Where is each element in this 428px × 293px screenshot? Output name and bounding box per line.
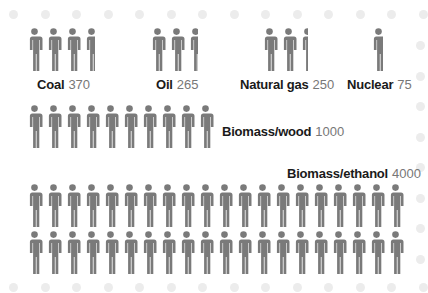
background-dot: [9, 283, 18, 292]
person-icon: [63, 231, 82, 275]
person-icon: [101, 184, 120, 228]
person-icon-partial: [82, 28, 95, 72]
person-icon: [25, 184, 44, 228]
category-name: Nuclear: [347, 77, 393, 92]
background-dot: [230, 10, 239, 19]
background-dot: [419, 283, 428, 292]
person-icon: [82, 231, 101, 275]
person-icon: [215, 184, 234, 228]
person-icon: [158, 184, 177, 228]
category-value: 265: [177, 77, 199, 92]
background-dot: [416, 133, 425, 142]
background-dot: [324, 283, 333, 292]
person-icon: [82, 184, 101, 228]
person-icon: [386, 184, 405, 228]
background-dot: [416, 72, 425, 81]
label-biomass-ethanol: Biomass/ethanol4000: [287, 166, 421, 181]
person-icon: [272, 184, 291, 228]
background-dot: [261, 10, 270, 19]
background-dot: [9, 10, 18, 19]
icon-row: [25, 28, 95, 72]
background-dot: [198, 10, 207, 19]
category-name: Biomass/wood: [222, 124, 311, 139]
background-dot: [135, 283, 144, 292]
category-name: Oil: [156, 77, 173, 92]
person-icon: [329, 184, 348, 228]
person-icon: [63, 184, 82, 228]
person-icon: [63, 105, 82, 149]
person-icon: [120, 231, 139, 275]
person-icon: [25, 28, 44, 72]
icon-row: [25, 105, 215, 149]
person-icon: [44, 184, 63, 228]
background-dot: [416, 255, 425, 264]
background-dot: [293, 283, 302, 292]
person-icon: [348, 231, 367, 275]
person-icon: [44, 28, 63, 72]
label-biomass-wood: Biomass/wood1000: [222, 124, 344, 139]
person-icon: [177, 231, 196, 275]
background-dot: [356, 283, 365, 292]
background-dot: [198, 283, 207, 292]
background-dot: [356, 10, 365, 19]
person-icon: [101, 231, 120, 275]
background-dot: [135, 10, 144, 19]
person-icon: [167, 28, 186, 72]
background-dot: [416, 41, 425, 50]
person-icon: [348, 184, 367, 228]
background-dot: [104, 283, 113, 292]
icon-row: [260, 28, 308, 72]
icon-row: [148, 28, 198, 72]
person-icon: [25, 105, 44, 149]
person-icon: [272, 231, 291, 275]
person-icon: [367, 231, 386, 275]
person-icon: [253, 231, 272, 275]
background-dot: [41, 10, 50, 19]
person-icon-partial: [186, 28, 198, 72]
person-icon: [291, 231, 310, 275]
person-icon: [139, 231, 158, 275]
category-value: 370: [68, 77, 90, 92]
category-value: 75: [397, 77, 411, 92]
person-icon: [158, 231, 177, 275]
person-icon: [120, 105, 139, 149]
person-icon: [177, 105, 196, 149]
background-dot: [72, 283, 81, 292]
person-icon: [329, 231, 348, 275]
person-icon: [158, 105, 177, 149]
person-icon: [196, 105, 215, 149]
background-dot: [72, 10, 81, 19]
category-name: Biomass/ethanol: [287, 166, 388, 181]
category-value: 1000: [315, 124, 344, 139]
background-dot: [416, 102, 425, 111]
person-icon: [120, 184, 139, 228]
person-icon: [386, 231, 405, 275]
person-icon-partial: [369, 28, 383, 72]
background-dot: [261, 283, 270, 292]
background-dot: [104, 10, 113, 19]
person-icon: [177, 184, 196, 228]
person-icon: [234, 184, 253, 228]
label-natural-gas: Natural gas250: [240, 77, 334, 92]
person-icon: [196, 184, 215, 228]
person-icon: [279, 28, 298, 72]
background-dot: [419, 10, 428, 19]
icon-row: [369, 28, 383, 72]
person-icon: [139, 184, 158, 228]
person-icon: [82, 105, 101, 149]
person-icon: [215, 231, 234, 275]
person-icon: [25, 231, 44, 275]
category-name: Coal: [37, 77, 64, 92]
person-icon: [291, 184, 310, 228]
icon-row: [25, 231, 405, 275]
person-icon: [310, 184, 329, 228]
person-icon: [101, 105, 120, 149]
background-dot: [167, 10, 176, 19]
person-icon: [44, 105, 63, 149]
person-icon: [234, 231, 253, 275]
background-dot: [387, 10, 396, 19]
person-icon: [253, 184, 272, 228]
person-icon: [310, 231, 329, 275]
background-dot: [324, 10, 333, 19]
person-icon: [367, 184, 386, 228]
